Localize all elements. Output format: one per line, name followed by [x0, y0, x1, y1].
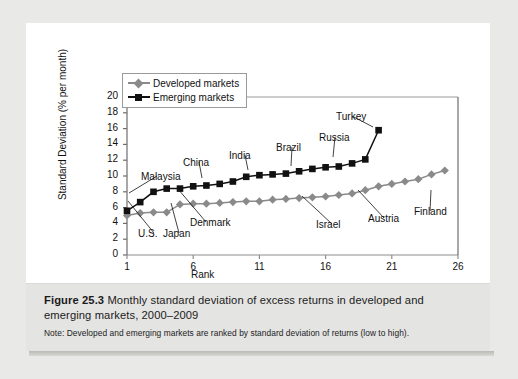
figure-caption: Figure 25.3 Monthly standard deviation o…	[44, 293, 468, 323]
data-point	[269, 196, 277, 204]
data-point	[308, 193, 316, 201]
data-point	[401, 177, 409, 185]
data-point	[230, 178, 237, 185]
data-point	[414, 175, 422, 183]
x-tick-1: 1	[116, 261, 138, 272]
figure-card: Standard Deviation (% per month) Rank 02…	[26, 23, 490, 283]
y-tick-8: 8	[93, 185, 118, 196]
data-point	[176, 200, 184, 208]
square-marker-icon	[128, 91, 150, 103]
data-point	[375, 182, 383, 190]
data-point	[348, 189, 356, 197]
chart-legend: Developed markets Emerging markets	[122, 73, 247, 108]
y-axis-title: Standard Deviation (% per month)	[57, 45, 68, 205]
data-point	[243, 174, 250, 181]
data-point	[124, 208, 131, 215]
data-point	[322, 164, 329, 171]
data-point	[216, 181, 223, 188]
annotation-brazil: Brazil	[276, 142, 301, 153]
annotation-finland: Finland	[414, 206, 447, 217]
annotation-malaysia: Malaysia	[141, 171, 180, 182]
legend-item-emerging: Emerging markets	[128, 90, 239, 104]
y-tick-16: 16	[93, 122, 118, 133]
data-point	[190, 183, 197, 190]
data-point	[269, 171, 276, 178]
data-point	[309, 166, 316, 173]
annotation-india: India	[229, 150, 251, 161]
y-tick-18: 18	[93, 106, 118, 117]
data-point	[336, 163, 343, 170]
data-point	[361, 186, 369, 194]
legend-label-developed: Developed markets	[153, 78, 239, 89]
figure-caption-panel: Figure 25.3 Monthly standard deviation o…	[26, 283, 490, 351]
data-point	[282, 195, 290, 203]
data-point	[256, 172, 263, 179]
data-point	[388, 180, 396, 188]
data-point	[335, 191, 343, 199]
data-point	[441, 166, 449, 174]
y-tick-0: 0	[93, 248, 118, 259]
annotation-japan: Japan	[163, 228, 190, 239]
data-point	[163, 208, 171, 216]
y-tick-4: 4	[93, 216, 118, 227]
y-tick-10: 10	[93, 169, 118, 180]
annotation-russia: Russia	[319, 132, 350, 143]
y-tick-6: 6	[93, 201, 118, 212]
data-point	[375, 127, 382, 134]
data-point	[202, 200, 210, 208]
data-point	[296, 168, 303, 175]
y-tick-14: 14	[93, 137, 118, 148]
x-tick-16: 16	[315, 261, 337, 272]
y-tick-2: 2	[93, 232, 118, 243]
data-point	[255, 197, 263, 205]
data-point	[229, 198, 237, 206]
data-point	[150, 189, 157, 196]
data-point	[283, 170, 290, 177]
annotation-china: China	[183, 157, 209, 168]
figure-note: Note: Developed and emerging markets are…	[44, 328, 476, 339]
x-tick-26: 26	[447, 261, 469, 272]
data-point	[137, 199, 144, 206]
annotation-denmark: Denmark	[190, 217, 231, 228]
legend-item-developed: Developed markets	[128, 76, 239, 90]
y-tick-20: 20	[93, 90, 118, 101]
x-tick-21: 21	[381, 261, 403, 272]
data-point	[427, 170, 435, 178]
annotation-austria: Austria	[368, 213, 399, 224]
annotation-turkey: Turkey	[336, 111, 366, 122]
data-point	[349, 160, 356, 167]
annotation-israel: Israel	[316, 219, 340, 230]
x-tick-6: 6	[182, 261, 204, 272]
diamond-marker-icon	[128, 77, 150, 89]
figure-number: Figure 25.3	[44, 294, 104, 306]
data-point	[295, 194, 303, 202]
data-point	[216, 199, 224, 207]
y-tick-12: 12	[93, 153, 118, 164]
data-point	[322, 192, 330, 200]
annotation-us: U.S.	[138, 228, 157, 239]
data-point	[242, 197, 250, 205]
data-point	[362, 156, 369, 163]
data-point	[203, 182, 210, 189]
x-tick-11: 11	[248, 261, 270, 272]
data-point	[163, 185, 170, 192]
legend-label-emerging: Emerging markets	[153, 92, 234, 103]
figure-page: Standard Deviation (% per month) Rank 02…	[0, 0, 518, 379]
data-point	[149, 208, 157, 216]
chart-plot-area: Standard Deviation (% per month) Rank 02…	[26, 23, 490, 283]
